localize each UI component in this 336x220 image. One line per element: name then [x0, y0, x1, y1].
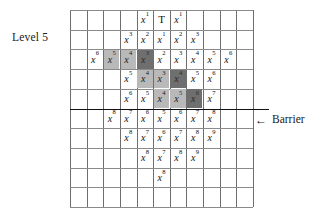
- cell-label: x6: [158, 132, 166, 143]
- cell-exponent: 8: [112, 108, 115, 115]
- grid-cell: x5: [121, 70, 136, 89]
- cell-label: x3: [191, 34, 199, 45]
- cell-exponent: 8: [179, 148, 182, 155]
- cell-label: x3: [158, 73, 166, 84]
- grid-cell: x2: [154, 50, 169, 69]
- cell-label: x6: [141, 113, 149, 124]
- cell-exponent: 8: [129, 128, 132, 135]
- cell-exponent: 6: [129, 89, 132, 96]
- cell-label: x4: [141, 73, 149, 84]
- cell-label: x4: [124, 54, 132, 65]
- cell-exponent: 3: [196, 30, 199, 37]
- grid-cell: x2: [137, 30, 152, 49]
- level-label: Level 5: [12, 31, 48, 43]
- cell-exponent: 5: [196, 69, 199, 76]
- barrier-label: Barrier: [272, 113, 305, 125]
- cell-label: x7: [174, 132, 182, 143]
- cell-label: x8: [108, 113, 116, 124]
- cell-label: x4: [191, 54, 199, 65]
- cell-exponent: 6: [179, 108, 182, 115]
- cell-label: x2: [174, 34, 182, 45]
- grid-cell: x4: [170, 70, 185, 89]
- cell-exponent: 3: [146, 49, 149, 56]
- cell-label: x5: [108, 54, 116, 65]
- grid-cell: x6: [204, 70, 219, 89]
- grid-cell: x6: [137, 109, 152, 128]
- grid-cell: x8: [137, 149, 152, 168]
- cell-exponent: 6: [146, 108, 149, 115]
- cell-label: x4: [174, 73, 182, 84]
- grid-cell: x7: [121, 109, 136, 128]
- grid-line-horizontal: [70, 207, 253, 208]
- cell-exponent: 7: [146, 128, 149, 135]
- cell-label: x6: [224, 54, 232, 65]
- grid-cell: x2: [170, 30, 185, 49]
- cell-exponent: 4: [129, 49, 132, 56]
- cell-exponent: 6: [96, 49, 99, 56]
- grid-cell: x8: [170, 149, 185, 168]
- cell-exponent: 5: [112, 49, 115, 56]
- cell-exponent: 4: [196, 49, 199, 56]
- cell-exponent: 6: [212, 69, 215, 76]
- cell-label: x5: [191, 73, 199, 84]
- cell-label: x7: [208, 93, 216, 104]
- cell-exponent: 8: [212, 108, 215, 115]
- cell-exponent: 6: [196, 89, 199, 96]
- grid-cell: x7: [154, 149, 169, 168]
- grid-cell: x8: [154, 168, 169, 187]
- cell-exponent: 6: [229, 49, 232, 56]
- grid-cell: T: [154, 11, 169, 30]
- grid-cell: x7: [187, 109, 202, 128]
- cell-label: x5: [208, 54, 216, 65]
- grid-cell: x5: [170, 89, 185, 108]
- grid-cell: x3: [187, 30, 202, 49]
- cell-exponent: 2: [146, 30, 149, 37]
- cell-label: x5: [124, 73, 132, 84]
- cell-label: x6: [124, 93, 132, 104]
- cell-exponent: 5: [129, 69, 132, 76]
- cell-label: x4: [158, 93, 166, 104]
- cell-label: T: [158, 14, 165, 25]
- cell-label: x8: [174, 152, 182, 163]
- cell-exponent: 8: [196, 128, 199, 135]
- cell-label: x5: [141, 93, 149, 104]
- grid-cell: x5: [104, 50, 119, 69]
- cell-exponent: 5: [212, 49, 215, 56]
- grid-cell: x7: [137, 129, 152, 148]
- cell-label: x2: [141, 34, 149, 45]
- cell-label: x8: [124, 132, 132, 143]
- grid-cell: x1: [154, 30, 169, 49]
- cell-label: x2: [158, 54, 166, 65]
- cell-label: x8: [208, 113, 216, 124]
- grid-cell: x3: [121, 30, 136, 49]
- grid-cell: x6: [220, 50, 235, 69]
- cell-exponent: 8: [162, 168, 165, 175]
- cell-label: x7: [158, 152, 166, 163]
- grid-cell: x3: [154, 70, 169, 89]
- cell-label: x5: [174, 93, 182, 104]
- grid-cell: x8: [204, 109, 219, 128]
- cell-exponent: 7: [179, 128, 182, 135]
- cell-label: x1: [174, 14, 182, 25]
- grid-cell: x1: [170, 11, 185, 30]
- grid-cell: x5: [154, 109, 169, 128]
- cell-exponent: 4: [146, 69, 149, 76]
- cell-exponent: 7: [162, 148, 165, 155]
- cell-label: x6: [191, 93, 199, 104]
- grid-cell: x5: [137, 89, 152, 108]
- grid-cell: x4: [137, 70, 152, 89]
- grid-cell: x4: [154, 89, 169, 108]
- grid-line-horizontal: [70, 187, 253, 188]
- cell-exponent: 4: [179, 69, 182, 76]
- cell-exponent: 8: [146, 148, 149, 155]
- cell-label: x7: [191, 113, 199, 124]
- cell-exponent: 3: [162, 69, 165, 76]
- grid-cell: x4: [121, 50, 136, 69]
- level-5-grid-figure: Level 5 x1Tx1x3x2x1x2x3x6x5x4x3x2x3x4x5x…: [0, 0, 336, 220]
- cell-exponent: 1: [162, 30, 165, 37]
- grid-cell: x8: [104, 109, 119, 128]
- cell-exponent: 6: [162, 128, 165, 135]
- cell-exponent: 9: [212, 128, 215, 135]
- grid-cell: x9: [187, 149, 202, 168]
- grid-cell: x1: [137, 11, 152, 30]
